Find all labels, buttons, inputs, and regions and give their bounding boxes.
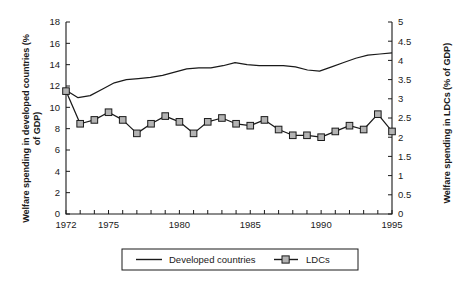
series-developed-countries bbox=[66, 53, 392, 98]
y-tick-label-right: 2.5 bbox=[398, 112, 411, 123]
series-marker bbox=[148, 120, 155, 127]
y-tick-label-left: 16 bbox=[49, 38, 60, 49]
y-tick-label-right: 1 bbox=[398, 170, 403, 181]
x-tick-label: 1985 bbox=[240, 219, 261, 230]
series-line bbox=[66, 53, 392, 98]
y-tick-label-left: 18 bbox=[49, 16, 60, 27]
y-tick-label-left: 8 bbox=[55, 123, 60, 134]
y-tick-label-left: 4 bbox=[55, 166, 60, 177]
series-marker bbox=[304, 132, 311, 139]
series-marker bbox=[247, 122, 254, 129]
y-tick-label-right: 0 bbox=[398, 208, 403, 219]
y-tick-label-right: 4 bbox=[398, 55, 403, 66]
y-axis-right-ticks bbox=[388, 22, 392, 214]
series-marker bbox=[162, 113, 169, 120]
y-axis-left-tick-labels: 024681012141618 bbox=[49, 16, 60, 219]
y-tick-label-right: 4.5 bbox=[398, 36, 411, 47]
y-tick-label-right: 3.5 bbox=[398, 74, 411, 85]
series-ldcs bbox=[63, 88, 396, 141]
series-marker bbox=[190, 130, 197, 137]
y-tick-label-left: 6 bbox=[55, 144, 60, 155]
y-tick-label-right: 2 bbox=[398, 132, 403, 143]
y-tick-label-left: 2 bbox=[55, 187, 60, 198]
x-tick-label: 1972 bbox=[55, 219, 76, 230]
y-axis-right-tick-labels: 00.511.522.533.544.55 bbox=[398, 16, 411, 219]
x-tick-label: 1995 bbox=[381, 219, 402, 230]
series-marker bbox=[375, 111, 382, 118]
x-tick-label: 1975 bbox=[98, 219, 119, 230]
y-tick-label-right: 1.5 bbox=[398, 151, 411, 162]
plot-frame bbox=[66, 22, 392, 214]
y-tick-label-left: 12 bbox=[49, 80, 60, 91]
y-tick-label-left: 10 bbox=[49, 102, 60, 113]
y-tick-label-left: 0 bbox=[55, 208, 60, 219]
series-marker bbox=[176, 119, 183, 126]
series-line bbox=[66, 91, 392, 137]
series-marker bbox=[275, 126, 282, 133]
series-marker bbox=[134, 130, 141, 137]
series-marker bbox=[318, 134, 325, 141]
chart-figure: Welfare spending in developed countries … bbox=[0, 0, 476, 286]
legend-marker-ldcs bbox=[282, 256, 289, 263]
y-tick-label-right: 0.5 bbox=[398, 189, 411, 200]
series-marker bbox=[77, 120, 84, 127]
x-tick-label: 1990 bbox=[311, 219, 332, 230]
series-marker bbox=[233, 120, 240, 127]
series-marker bbox=[360, 126, 367, 133]
series-marker bbox=[204, 119, 211, 126]
series-marker bbox=[91, 117, 98, 124]
x-axis-tick-labels: 197219751980198519901995 bbox=[55, 219, 402, 230]
y-tick-label-right: 5 bbox=[398, 16, 403, 27]
series-marker bbox=[289, 132, 296, 139]
series-marker bbox=[332, 128, 339, 135]
y-axis-left-ticks bbox=[66, 22, 70, 214]
series-marker bbox=[346, 122, 353, 129]
series-marker bbox=[63, 88, 70, 95]
series-marker bbox=[119, 117, 126, 124]
chart-legend: Developed countriesLDCs bbox=[122, 249, 358, 270]
x-tick-label: 1980 bbox=[169, 219, 190, 230]
legend-label-developed-countries: Developed countries bbox=[169, 254, 256, 265]
y-tick-label-right: 3 bbox=[398, 93, 403, 104]
legend-label-ldcs: LDCs bbox=[306, 254, 330, 265]
series-marker bbox=[105, 109, 112, 116]
chart-canvas: 197219751980198519901995 024681012141618… bbox=[0, 0, 476, 286]
series-marker bbox=[389, 128, 396, 135]
x-axis-ticks bbox=[66, 210, 392, 214]
series-marker bbox=[261, 117, 268, 124]
y-tick-label-left: 14 bbox=[49, 59, 60, 70]
series-marker bbox=[219, 115, 226, 122]
